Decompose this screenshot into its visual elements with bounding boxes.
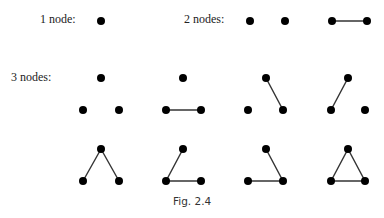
graph-node <box>328 17 336 25</box>
graph-node <box>97 74 105 82</box>
nodes-layer <box>79 17 371 185</box>
graph-node <box>279 106 287 114</box>
graph-edge <box>166 149 183 181</box>
graph-node <box>115 177 123 185</box>
graph-node <box>327 177 335 185</box>
graph-node <box>363 17 371 25</box>
graph-node <box>197 106 205 114</box>
graph-node <box>115 106 123 114</box>
graph-node <box>162 177 170 185</box>
graph-node <box>361 106 369 114</box>
graph-node <box>344 145 352 153</box>
graph-node <box>244 106 252 114</box>
graph-node <box>361 177 369 185</box>
graph-node <box>327 106 335 114</box>
graph-node <box>244 177 252 185</box>
graph-node <box>179 145 187 153</box>
graph-edge <box>101 149 119 181</box>
graph-edge <box>348 149 365 181</box>
graph-node <box>262 145 270 153</box>
graph-node <box>179 74 187 82</box>
graph-node <box>281 17 289 25</box>
graph-diagram <box>0 0 384 218</box>
graph-node <box>197 177 205 185</box>
graph-node <box>246 17 254 25</box>
figure-caption: Fig. 2.4 <box>173 196 211 207</box>
graph-node <box>79 106 87 114</box>
graph-node <box>97 145 105 153</box>
edges-layer <box>83 21 367 181</box>
graph-edge <box>331 149 348 181</box>
graph-node <box>97 17 105 25</box>
graph-edge <box>83 149 101 181</box>
graph-node <box>344 74 352 82</box>
graph-node <box>279 177 287 185</box>
graph-edge <box>331 78 348 110</box>
graph-node <box>262 74 270 82</box>
graph-node <box>79 177 87 185</box>
graph-edge <box>266 149 283 181</box>
graph-node <box>162 106 170 114</box>
graph-edge <box>266 78 283 110</box>
